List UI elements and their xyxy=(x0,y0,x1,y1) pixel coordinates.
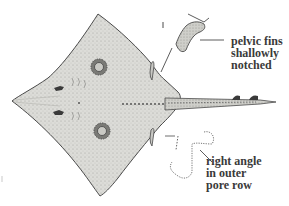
dorsal-fin xyxy=(249,96,258,101)
skate-tail xyxy=(165,98,276,110)
skate-disc xyxy=(12,14,180,196)
pelvic-fin-detail xyxy=(161,14,224,72)
eye-spot-bottom-icon xyxy=(94,123,110,139)
eye-spot-top-icon xyxy=(91,59,107,75)
pelvic-fin-bottom xyxy=(150,128,154,146)
pelvic-fins-annotation: pelvic fins shallowly notched xyxy=(231,35,283,71)
annotation-line: notched xyxy=(231,59,283,71)
pore-row-annotation: right angle in outer pore row xyxy=(206,155,262,191)
annotation-line: pore row xyxy=(206,179,262,191)
dorsal-fin xyxy=(232,96,240,101)
